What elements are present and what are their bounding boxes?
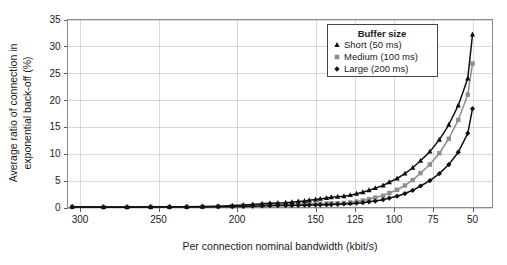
series-marker (437, 151, 441, 155)
x-axis-title: Per connection nominal bandwidth (kbit/s… (183, 240, 378, 252)
line-chart-canvas: 3002502001501251007550 05101520253035 Pe… (0, 0, 507, 265)
series-marker (418, 171, 422, 175)
square-icon (335, 55, 340, 60)
series-marker (447, 137, 451, 141)
x-tick-label: 100 (386, 214, 403, 225)
x-tick-label: 250 (150, 214, 167, 225)
series-marker (456, 118, 460, 122)
y-tick-label: 5 (55, 175, 61, 186)
y-axis-title-line2: exponential back-off (%) (21, 56, 33, 169)
legend: Buffer size Short (50 ms)Medium (100 ms)… (328, 25, 438, 77)
series-marker (428, 162, 432, 166)
legend-entry-label: Medium (100 ms) (344, 51, 418, 62)
series-marker (395, 188, 399, 192)
series-marker (403, 183, 407, 187)
legend-entry-label: Short (50 ms) (344, 39, 402, 50)
x-tick-label: 75 (427, 214, 439, 225)
chart-figure: 3002502001501251007550 05101520253035 Pe… (0, 0, 507, 265)
x-tick-label: 150 (307, 214, 324, 225)
y-tick-label: 30 (49, 41, 61, 52)
y-tick-label: 20 (49, 95, 61, 106)
y-tick-label: 0 (55, 202, 61, 213)
legend-title: Buffer size (358, 28, 407, 39)
x-tick-label: 125 (347, 214, 364, 225)
y-tick-label: 35 (49, 14, 61, 25)
series-marker (466, 92, 470, 96)
y-tick-label: 15 (49, 121, 61, 132)
series-marker (470, 61, 474, 65)
y-tick-label: 10 (49, 148, 61, 159)
series-marker (387, 191, 391, 195)
series-marker (411, 178, 415, 182)
legend-entry-label: Large (200 ms) (344, 63, 408, 74)
y-tick-label: 25 (49, 68, 61, 79)
x-tick-label: 300 (72, 214, 89, 225)
x-tick-label: 50 (467, 214, 479, 225)
x-tick-label: 200 (229, 214, 246, 225)
y-axis-title-line1: Average ratio of connection in (7, 43, 19, 182)
